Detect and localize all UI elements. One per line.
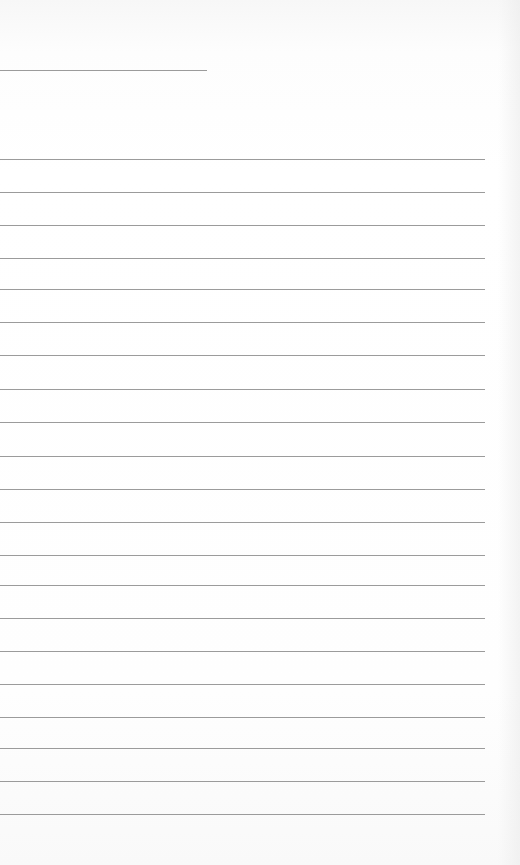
ruled-line — [0, 585, 485, 586]
ruled-line — [0, 684, 485, 685]
ruled-line — [0, 355, 485, 356]
ruled-line — [0, 522, 485, 523]
ruled-line — [0, 422, 485, 423]
ruled-line — [0, 651, 485, 652]
ruled-line — [0, 748, 485, 749]
ruled-line — [0, 322, 485, 323]
ruled-line — [0, 159, 485, 160]
ruled-line — [0, 258, 485, 259]
ruled-line — [0, 814, 485, 815]
ruled-line — [0, 489, 485, 490]
ruled-line — [0, 289, 485, 290]
lined-paper-page — [0, 0, 520, 865]
ruled-line — [0, 781, 485, 782]
ruled-line — [0, 192, 485, 193]
ruled-line — [0, 225, 485, 226]
ruled-line — [0, 618, 485, 619]
ruled-line — [0, 717, 485, 718]
ruled-line — [0, 456, 485, 457]
ruled-line — [0, 389, 485, 390]
header-line — [0, 70, 207, 71]
ruled-line — [0, 555, 485, 556]
